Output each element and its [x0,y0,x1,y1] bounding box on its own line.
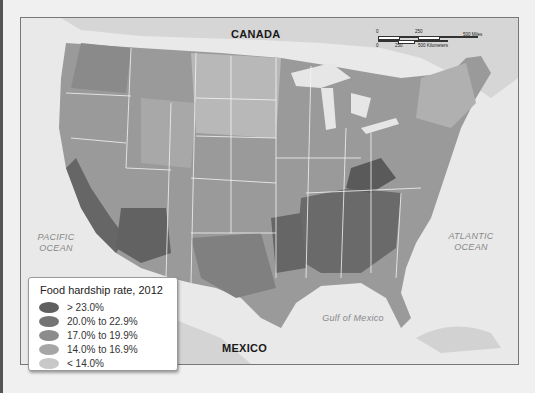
label-atlantic-ocean: ATLANTIC OCEAN [441,231,501,253]
legend-item: > 23.0% [39,301,104,314]
legend-item: 14.0% to 16.9% [39,343,138,356]
atlantic-line1: ATLANTIC [441,231,501,242]
pacific-line1: PACIFIC [26,232,86,243]
label-canada: CANADA [231,28,280,40]
legend-label: 20.0% to 22.9% [67,316,138,327]
legend-label: 14.0% to 16.9% [67,344,138,355]
legend-title: Food hardship rate, 2012 [40,284,163,296]
region-rockies [141,98,196,168]
legend-swatch [39,344,59,355]
legend-swatch [39,302,59,313]
label-pacific-ocean: PACIFIC OCEAN [26,232,86,254]
region-washington [71,43,131,93]
scale-miles-0: 0 [376,29,379,34]
region-plains [191,53,281,138]
scale-miles-500: 500 Miles [463,32,482,37]
legend-item: 20.0% to 22.9% [39,315,138,328]
scale-miles-250: 250 [415,29,423,34]
atlantic-line2: OCEAN [441,242,501,253]
region-northeast [416,63,476,128]
scale-km-250: 250 [395,43,403,48]
scale-bar: 0 250 500 Miles 0 250 500 Kilometers [373,25,483,55]
legend-label: < 14.0% [67,358,104,369]
legend-swatch [39,316,59,327]
legend-item: 17.0% to 19.9% [39,329,138,342]
cuba-land [416,327,501,353]
label-mexico: MEXICO [222,342,267,354]
legend: Food hardship rate, 2012 > 23.0% 20.0% t… [28,277,178,371]
label-gulf-of-mexico: Gulf of Mexico [313,313,393,324]
scale-km-500: 500 Kilometers [418,43,448,48]
region-texas [191,233,276,298]
legend-label: 17.0% to 19.9% [67,330,138,341]
scale-km-0: 0 [376,43,379,48]
legend-item: < 14.0% [39,357,104,370]
legend-swatch [39,330,59,341]
pacific-line2: OCEAN [26,243,86,254]
legend-swatch [39,358,59,369]
legend-label: > 23.0% [67,302,104,313]
page-edge [0,0,3,393]
